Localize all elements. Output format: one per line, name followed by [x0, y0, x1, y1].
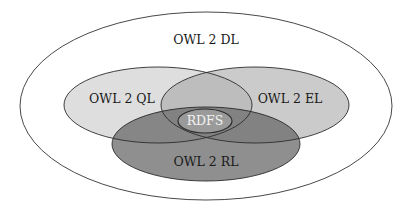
label-rdfs: RDFS: [187, 113, 224, 128]
venn-svg: OWL 2 DL OWL 2 QL OWL 2 EL OWL 2 RL RDFS: [0, 0, 411, 213]
owl2-profiles-venn-diagram: OWL 2 DL OWL 2 QL OWL 2 EL OWL 2 RL RDFS: [0, 0, 411, 213]
label-owl2-ql: OWL 2 QL: [89, 91, 155, 106]
label-owl2-rl: OWL 2 RL: [173, 154, 238, 169]
label-owl2-el: OWL 2 EL: [258, 91, 323, 106]
label-owl2-dl: OWL 2 DL: [173, 32, 239, 47]
